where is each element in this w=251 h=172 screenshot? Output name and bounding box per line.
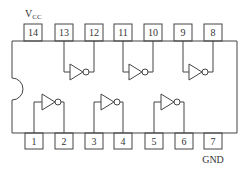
pin-6-label: 6 xyxy=(182,136,187,147)
pin-13-label: 13 xyxy=(59,27,69,38)
pin-12-label: 12 xyxy=(89,27,99,38)
pin-7-label: 7 xyxy=(211,136,216,147)
pin-11-label: 11 xyxy=(118,27,128,38)
vcc-label: VCC xyxy=(25,8,42,21)
pin-10-label: 10 xyxy=(148,27,158,38)
pin-4-label: 4 xyxy=(121,136,126,147)
pin-9-label: 9 xyxy=(181,27,186,38)
pin-2-label: 2 xyxy=(62,136,67,147)
pin-5-label: 5 xyxy=(152,136,157,147)
gnd-label: GND xyxy=(202,154,224,165)
ic-pinout-diagram: 14 13 12 11 10 9 8 1 2 3 4 5 6 7 VCC GND xyxy=(0,0,251,172)
pin-8-label: 8 xyxy=(211,27,216,38)
pin-3-label: 3 xyxy=(92,136,97,147)
ic-body xyxy=(12,41,237,133)
pin-14-label: 14 xyxy=(28,27,38,38)
pin-1-label: 1 xyxy=(32,136,37,147)
